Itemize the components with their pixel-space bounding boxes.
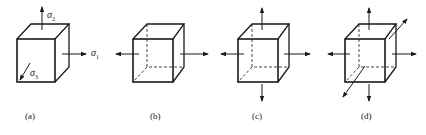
sigma3-arrow [20, 63, 30, 80]
caption-b: (b) [150, 111, 161, 121]
cube-c [221, 8, 310, 101]
sigma1-label: σ1 [91, 47, 99, 60]
caption-a: (a) [25, 111, 35, 121]
caption-d: (d) [361, 111, 372, 121]
sigma2-label: σ2 [47, 9, 55, 22]
cube-d [328, 8, 416, 101]
caption-c: (c) [252, 111, 262, 121]
sigma3-label: σ3 [30, 67, 38, 80]
cube-b [116, 24, 208, 82]
